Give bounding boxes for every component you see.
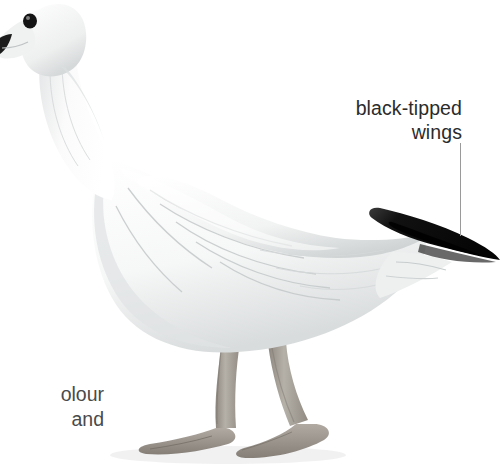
clipped-caption-line2: and [0, 407, 104, 432]
eye [23, 14, 37, 29]
clipped-caption-line1: olour [61, 383, 104, 405]
tail [376, 252, 452, 298]
legs [215, 340, 308, 428]
body [92, 162, 426, 352]
clipped-caption: olour and [0, 382, 104, 432]
wingtip-callout-line2: wings [242, 120, 462, 144]
wingtip-leader-line [460, 143, 461, 236]
wingtip-callout: black-tipped wings [242, 96, 462, 144]
wingtip-callout-line1: black-tipped [356, 97, 462, 119]
goose-illustration: black-tipped wings olour and [0, 0, 504, 466]
